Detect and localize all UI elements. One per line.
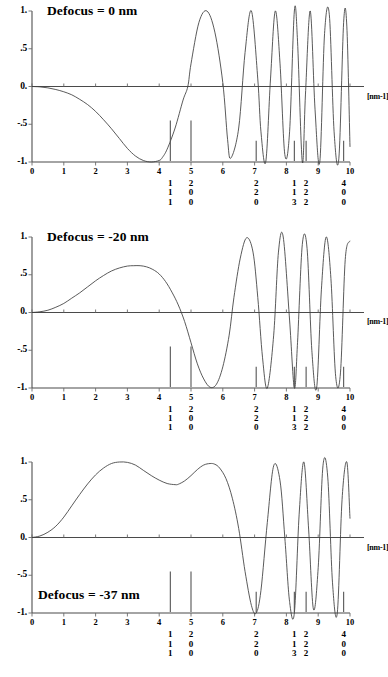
- x-axis-label: 9: [309, 618, 327, 627]
- miller-index-label: 200: [184, 630, 198, 658]
- x-axis-label: 10: [341, 167, 359, 176]
- miller-index-label: 400: [337, 179, 351, 207]
- miller-index-label: 111: [163, 405, 177, 433]
- ctf-panel: 1..50.-.5-1.012345678910[nm-1]Defocus = …: [0, 451, 388, 677]
- x-axis-label: 0: [23, 393, 41, 402]
- y-axis-label: .5: [2, 269, 27, 279]
- miller-index-digit: 2: [299, 423, 313, 432]
- panel-title: Defocus = -37 nm: [38, 587, 140, 603]
- miller-index-label: 222: [299, 179, 313, 207]
- miller-index-label: 222: [299, 405, 313, 433]
- x-axis-label: 3: [118, 393, 136, 402]
- miller-index-digit: 0: [337, 423, 351, 432]
- miller-index-digit: 1: [163, 423, 177, 432]
- x-axis-label: 1: [55, 393, 73, 402]
- miller-index-label: 400: [337, 630, 351, 658]
- x-axis-label: 8: [277, 393, 295, 402]
- miller-index-digit: 1: [163, 649, 177, 658]
- x-axis-label: 0: [23, 618, 41, 627]
- miller-index-label: 200: [184, 405, 198, 433]
- x-axis-label: 4: [150, 393, 168, 402]
- miller-index-digit: 0: [184, 649, 198, 658]
- miller-index-label: 222: [299, 630, 313, 658]
- x-axis-unit-label: [nm-1]: [367, 543, 388, 552]
- x-axis-label: 4: [150, 618, 168, 627]
- ctf-panel: 1..50.-.5-1.012345678910[nm-1]Defocus = …: [0, 0, 388, 226]
- ctf-panel: 1..50.-.5-1.012345678910[nm-1]Defocus = …: [0, 226, 388, 452]
- miller-index-digit: 1: [163, 198, 177, 207]
- x-axis-label: 1: [55, 167, 73, 176]
- miller-index-label: 220: [249, 179, 263, 207]
- x-axis-label: 2: [87, 618, 105, 627]
- x-axis-label: 2: [87, 393, 105, 402]
- x-axis-label: 6: [214, 393, 232, 402]
- panel-title: Defocus = 0 nm: [47, 3, 137, 19]
- y-axis-label: -.5: [2, 570, 27, 580]
- miller-index-label: 220: [249, 630, 263, 658]
- miller-index-digit: 0: [337, 649, 351, 658]
- miller-index-digit: 2: [299, 198, 313, 207]
- panel-title: Defocus = -20 nm: [47, 229, 149, 245]
- miller-index-digit: 0: [249, 423, 263, 432]
- y-axis-label: 0.: [2, 82, 27, 92]
- miller-index-digit: 0: [184, 198, 198, 207]
- x-axis-label: 4: [150, 167, 168, 176]
- y-axis-label: -1.: [2, 383, 27, 393]
- x-axis-label: 10: [341, 618, 359, 627]
- ctf-figure: 1..50.-.5-1.012345678910[nm-1]Defocus = …: [0, 0, 388, 677]
- x-axis-label: 9: [309, 393, 327, 402]
- y-axis-label: -.5: [2, 119, 27, 129]
- miller-index-label: 200: [184, 179, 198, 207]
- x-axis-label: 3: [118, 167, 136, 176]
- y-axis-label: 1.: [2, 232, 27, 242]
- miller-index-digit: 2: [299, 649, 313, 658]
- x-axis-label: 5: [182, 393, 200, 402]
- y-axis-label: .5: [2, 495, 27, 505]
- miller-index-digit: 0: [337, 198, 351, 207]
- y-axis-label: .5: [2, 44, 27, 54]
- x-axis-label: 6: [214, 618, 232, 627]
- x-axis-label: 3: [118, 618, 136, 627]
- miller-index-digit: 0: [184, 423, 198, 432]
- x-axis-unit-label: [nm-1]: [367, 92, 388, 101]
- y-axis-label: 0.: [2, 307, 27, 317]
- miller-index-label: 111: [163, 630, 177, 658]
- x-axis-label: 8: [277, 167, 295, 176]
- y-axis-label: -.5: [2, 345, 27, 355]
- y-axis-label: -1.: [2, 157, 27, 167]
- miller-index-digit: 0: [249, 649, 263, 658]
- x-axis-label: 1: [55, 618, 73, 627]
- x-axis-label: 5: [182, 167, 200, 176]
- x-axis-label: 2: [87, 167, 105, 176]
- x-axis-label: 6: [214, 167, 232, 176]
- miller-index-digit: 0: [249, 198, 263, 207]
- x-axis-label: 5: [182, 618, 200, 627]
- x-axis-label: 10: [341, 393, 359, 402]
- miller-index-label: 400: [337, 405, 351, 433]
- x-axis-label: 7: [246, 618, 264, 627]
- y-axis-label: 1.: [2, 457, 27, 467]
- miller-index-label: 220: [249, 405, 263, 433]
- y-axis-label: -1.: [2, 608, 27, 618]
- x-axis-label: 7: [246, 393, 264, 402]
- x-axis-label: 8: [277, 618, 295, 627]
- x-axis-unit-label: [nm-1]: [367, 317, 388, 326]
- x-axis-label: 7: [246, 167, 264, 176]
- y-axis-label: 1.: [2, 6, 27, 16]
- y-axis-label: 0.: [2, 533, 27, 543]
- x-axis-label: 9: [309, 167, 327, 176]
- miller-index-label: 111: [163, 179, 177, 207]
- x-axis-label: 0: [23, 167, 41, 176]
